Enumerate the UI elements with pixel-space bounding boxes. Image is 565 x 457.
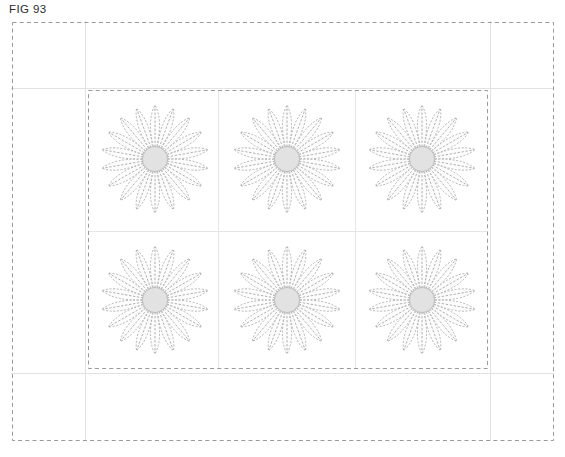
flower-r2c3 bbox=[369, 246, 475, 354]
flower-center-circle bbox=[274, 146, 299, 171]
flower-r2c2 bbox=[234, 246, 340, 354]
figure-drawing-canvas bbox=[0, 0, 565, 457]
flower-center-circle bbox=[274, 287, 299, 312]
flower-r1c1 bbox=[102, 105, 208, 213]
flower-center-circle bbox=[142, 287, 167, 312]
caption-strip bbox=[0, 444, 565, 457]
flower-layer bbox=[102, 105, 475, 354]
flower-r2c1 bbox=[102, 246, 208, 354]
flower-r1c3 bbox=[369, 105, 475, 213]
flower-center-circle bbox=[409, 146, 434, 171]
flower-center-circle bbox=[409, 287, 434, 312]
flower-center-circle bbox=[142, 146, 167, 171]
flower-r1c2 bbox=[234, 105, 340, 213]
figure-page: FIG 93 bbox=[0, 0, 565, 457]
